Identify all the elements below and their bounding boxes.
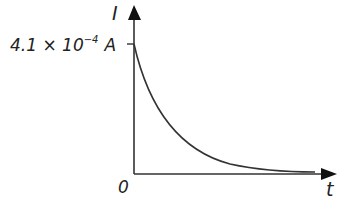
y-tick-unit: A — [103, 35, 116, 55]
y-axis-arrow-icon — [128, 5, 141, 20]
decay-curve — [134, 44, 315, 172]
x-axis-label: t — [326, 178, 335, 199]
current-decay-graph: I t 0 4.1 × 10−4A — [0, 0, 339, 199]
y-tick-exponent: −4 — [84, 34, 99, 45]
origin-label: 0 — [118, 177, 129, 197]
y-axis-label: I — [112, 2, 118, 24]
y-tick-mantissa: 4.1 × 10 — [10, 35, 84, 55]
y-tick-label: 4.1 × 10−4A — [10, 34, 116, 55]
